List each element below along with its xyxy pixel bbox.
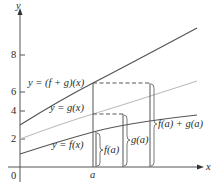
y-tick-label-6: 6 [11, 87, 16, 98]
curve-g [20, 81, 197, 139]
label-f-plus-g-curve: y = (f + g)(x) [28, 78, 84, 89]
y-tick-label-4: 4 [11, 106, 16, 117]
x-axis-arrow-icon [197, 165, 204, 170]
brace-fa [97, 133, 103, 166]
sum-of-functions-diagram [0, 0, 219, 187]
label-ga: g(a) [131, 135, 149, 146]
label-fa-plus-ga: f(a) + g(a) [158, 119, 203, 130]
label-fa: f(a) [104, 145, 119, 156]
x-tick-label-a: a [90, 170, 95, 181]
y-tick-label-2: 2 [11, 134, 16, 145]
brace-fa-plus-ga [151, 84, 157, 166]
origin-label: 0 [11, 171, 16, 182]
brace-ga [124, 115, 130, 166]
label-f-curve: y = f(x) [52, 140, 84, 151]
x-axis-label: x [206, 162, 211, 173]
y-tick-label-8: 8 [11, 50, 16, 61]
label-g-curve: y = g(x) [50, 103, 84, 114]
y-axis-label: y [16, 1, 21, 12]
